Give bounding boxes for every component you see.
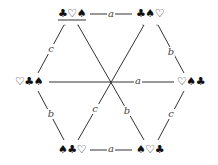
dot [77, 24, 78, 25]
edge-label-mr-br: c [167, 109, 175, 119]
edge-label-bl-br: a [107, 144, 115, 154]
edge-label-ml-bl: b [47, 109, 55, 119]
dot [156, 24, 157, 25]
dot [64, 24, 65, 25]
edge-label-ml-mr: a [134, 76, 142, 86]
node-top-right: ♣♠♡ [136, 8, 164, 20]
edge-label-tr-bl: c [91, 104, 99, 114]
edge-label-tl-ml: c [47, 44, 55, 54]
node-top-left: ♣♡♠ [58, 8, 86, 21]
node-mid-left: ♡♣♠ [15, 76, 43, 88]
node-mid-right: ♡♠♣ [177, 76, 205, 88]
edge-label-tl-tr: a [107, 9, 115, 19]
node-bottom-left: ♠♣♡ [58, 144, 86, 156]
edge-label-tl-br: b [123, 106, 131, 116]
node-bottom-right: ♠♡♣ [136, 144, 164, 156]
edge-label-tr-mr: b [167, 47, 175, 57]
dot [142, 24, 143, 25]
